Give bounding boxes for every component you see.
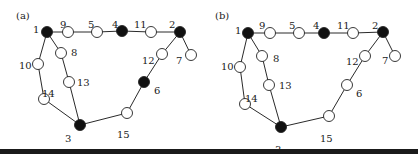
filled-node-2	[378, 27, 389, 38]
panel-label: (b)	[215, 10, 229, 21]
node-label-7: 7	[176, 55, 182, 66]
node-label-11: 11	[337, 20, 350, 31]
empty-node-10	[33, 59, 44, 70]
node-label-6: 6	[154, 85, 160, 96]
node-label-15: 15	[117, 129, 130, 140]
node-label-9: 9	[259, 20, 265, 31]
empty-node-9	[265, 28, 276, 39]
node-label-3: 3	[65, 133, 71, 144]
filled-node-1	[243, 28, 254, 39]
node-label-1: 1	[235, 25, 241, 36]
empty-node-7	[186, 50, 197, 61]
node-label-7: 7	[382, 55, 388, 66]
empty-node-11	[146, 27, 157, 38]
edges-layer	[38, 31, 395, 127]
graph-figure: 1954112712810131431561954112712810131431…	[0, 0, 418, 154]
node-label-13: 13	[77, 77, 90, 88]
panel-b-edges	[240, 32, 395, 127]
empty-node-15	[324, 111, 335, 122]
empty-node-12	[360, 51, 371, 62]
node-label-11: 11	[134, 19, 147, 30]
node-label-12: 12	[142, 55, 155, 66]
node-label-12: 12	[346, 56, 359, 67]
filled-node-3	[75, 120, 86, 131]
empty-node-7	[390, 51, 401, 62]
node-label-4: 4	[313, 20, 319, 31]
node-label-5: 5	[88, 19, 94, 30]
edge-15-3	[281, 116, 329, 127]
node-label-8: 8	[71, 47, 77, 58]
empty-node-13	[264, 80, 275, 91]
node-label-2: 2	[169, 19, 175, 30]
node-label-13: 13	[279, 80, 292, 91]
node-label-9: 9	[60, 19, 66, 30]
panel-label: (a)	[16, 10, 30, 21]
node-label-1: 1	[33, 24, 39, 35]
node-label-14: 14	[245, 93, 258, 104]
empty-node-13	[64, 77, 75, 88]
empty-node-8	[257, 51, 268, 62]
node-label-6: 6	[356, 88, 362, 99]
panel-a-edges	[38, 31, 191, 125]
empty-node-12	[157, 49, 168, 60]
empty-node-15	[122, 108, 133, 119]
node-label-4: 4	[112, 19, 118, 30]
empty-node-10	[235, 62, 246, 73]
empty-node-6	[342, 80, 353, 91]
bottom-rule	[0, 149, 418, 154]
edge-15-3	[80, 113, 127, 125]
node-label-15: 15	[320, 133, 333, 144]
node-label-5: 5	[289, 20, 295, 31]
filled-node-6	[139, 77, 150, 88]
filled-node-2	[175, 27, 186, 38]
node-label-10: 10	[19, 60, 32, 71]
filled-node-4	[319, 28, 330, 39]
filled-node-3	[276, 122, 287, 133]
node-label-8: 8	[273, 53, 279, 64]
node-label-14: 14	[42, 88, 55, 99]
node-label-2: 2	[372, 20, 378, 31]
empty-node-8	[56, 48, 67, 59]
filled-node-1	[42, 27, 53, 38]
node-label-10: 10	[221, 61, 234, 72]
